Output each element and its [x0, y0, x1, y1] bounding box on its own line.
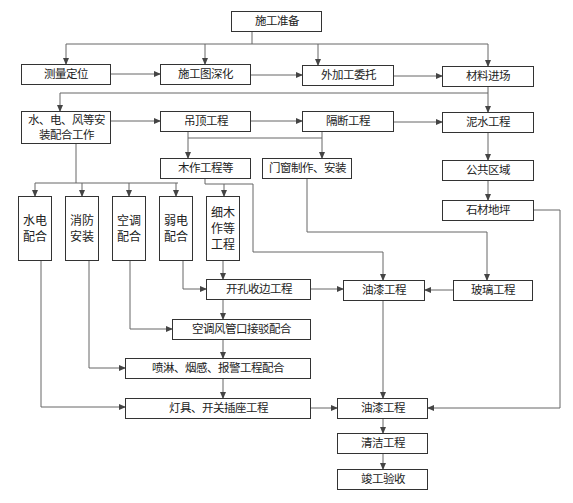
node-survey-positioning: 测量定位 [21, 64, 111, 85]
node-fire-protection: 消防安装 [65, 196, 99, 261]
node-low-voltage: 弱电配合 [159, 196, 193, 261]
node-plumbing-electric: 水电配合 [18, 196, 52, 261]
node-carpentry-works: 木作工程等 [160, 158, 251, 179]
node-public-area: 公共区域 [442, 160, 534, 181]
node-mep-installation: 水、电、风等安装配合工作 [21, 111, 111, 144]
node-duct-connection: 空调风管口接驳配合 [172, 319, 311, 340]
node-completion-acceptance: 竣工验收 [337, 469, 428, 490]
node-cleaning: 清洁工程 [337, 433, 428, 454]
node-doors-windows: 门窗制作、安装 [262, 158, 352, 179]
node-construction-prep: 施工准备 [231, 11, 322, 32]
node-outsourced-processing: 外加工委托 [302, 65, 394, 86]
node-materials-arrival: 材料进场 [442, 66, 534, 87]
node-masonry-works: 泥水工程 [442, 112, 534, 133]
node-stone-flooring: 石材地坪 [442, 200, 534, 221]
node-opening-trim: 开孔收边工程 [206, 279, 311, 300]
node-drawing-deepening: 施工图深化 [160, 64, 251, 85]
node-partition-works: 隔断工程 [302, 111, 394, 132]
node-glass-works: 玻璃工程 [453, 280, 533, 301]
node-painting-2: 油漆工程 [337, 398, 428, 419]
node-fine-woodwork: 细木作等工程 [206, 196, 240, 261]
node-ceiling-works: 吊顶工程 [160, 111, 251, 132]
node-hvac-coordination: 空调配合 [112, 196, 146, 261]
node-sprinkler-alarm: 喷淋、烟感、报警工程配合 [125, 358, 311, 379]
node-lights-switches: 灯具、开关插座工程 [125, 398, 311, 419]
node-painting-1: 油漆工程 [343, 280, 425, 301]
